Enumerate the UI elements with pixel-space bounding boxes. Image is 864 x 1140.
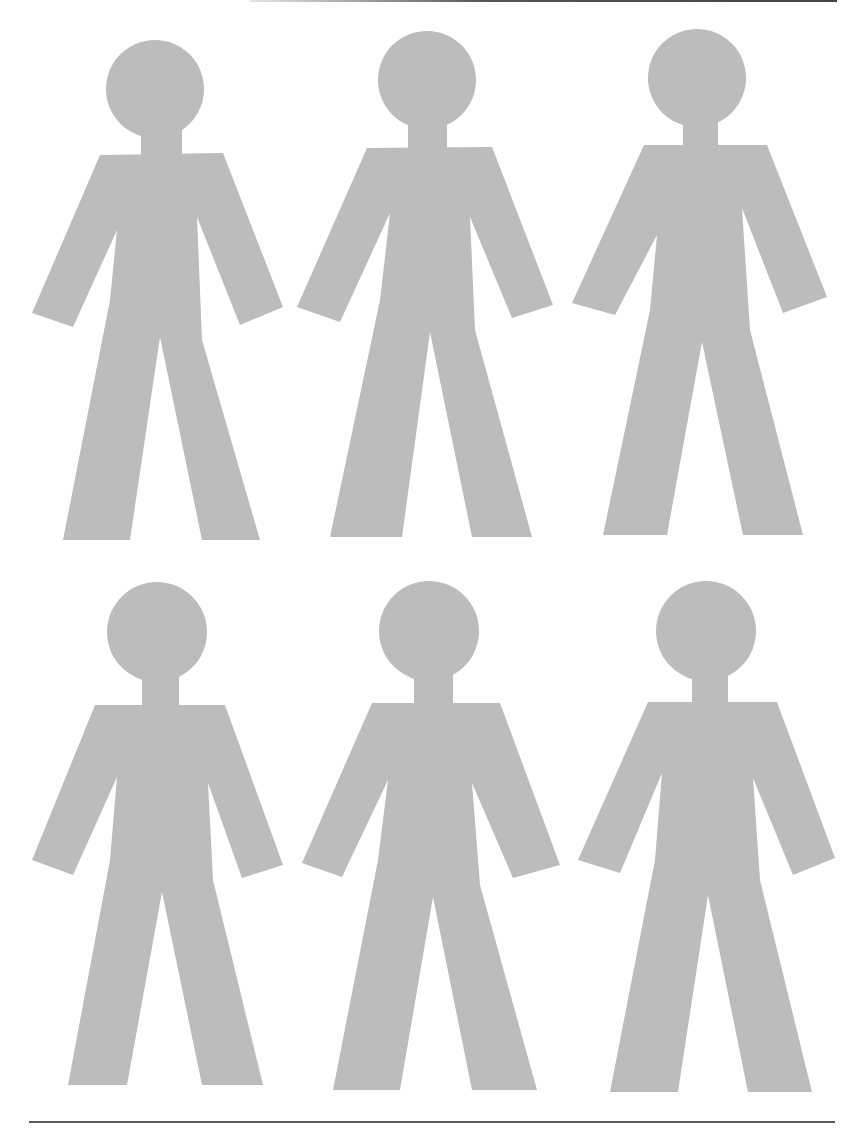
person-figure-icon [572, 29, 827, 535]
bottom-rule [29, 1121, 835, 1123]
person-figure-icon [32, 40, 283, 540]
figure-grid [0, 0, 864, 1140]
person-figure-icon [578, 581, 835, 1092]
person-figure-icon [32, 582, 283, 1085]
person-figure-icon [297, 31, 553, 537]
person-figure-icon [302, 581, 560, 1090]
